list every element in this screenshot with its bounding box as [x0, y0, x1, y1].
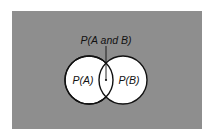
- intersection-pointer-dot: [105, 79, 107, 81]
- set-a-label: P(A): [73, 74, 94, 86]
- set-b-label: P(B): [119, 74, 140, 86]
- venn-diagram: P(A and B) P(A) P(B): [0, 0, 211, 138]
- intersection-label: P(A and B): [81, 34, 132, 46]
